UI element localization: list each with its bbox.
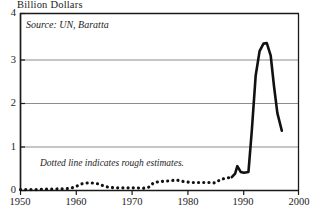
plot-area (0, 0, 318, 215)
series-rough-estimates (21, 177, 232, 189)
chart-figure: Billion Dollars Source: UN, Baratta Dott… (0, 0, 318, 215)
axes-frame (20, 13, 299, 191)
axis-ticks (20, 14, 299, 196)
series-actual (232, 43, 282, 177)
